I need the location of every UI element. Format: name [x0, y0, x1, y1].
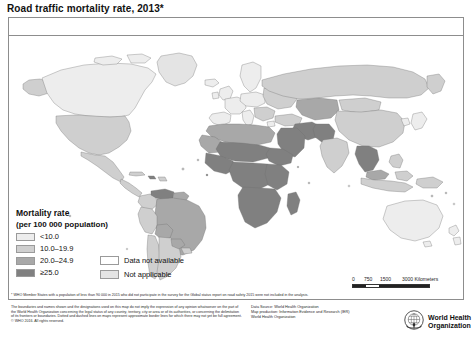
map-credits: Data Source: World Health Organization M…: [251, 305, 391, 320]
legend-label: Data not available: [124, 256, 184, 265]
credit-organization: World Health Organization: [251, 315, 391, 320]
legend-item: <10.0: [16, 231, 216, 242]
legend-subtitle: (per 100 000 population): [16, 219, 216, 230]
legend-item-not-applicable: Not applicable: [100, 269, 184, 280]
legend-swatch: [16, 269, 35, 277]
poster-root: Road traffic mortality rate, 2013* .l1 {…: [0, 0, 473, 343]
footnote-asterisk: * WHO Member States with a population of…: [11, 293, 311, 298]
who-logo: World Health Organization: [404, 310, 471, 334]
legend-item-data-not-available: Data not available: [100, 255, 184, 266]
scale-tick: 0: [352, 276, 355, 282]
scale-tick: 1500: [380, 276, 391, 282]
title-bar: [9, 18, 463, 36]
legend-label: ≥25.0: [40, 268, 59, 277]
legend-swatch: [100, 256, 119, 265]
map-disclaimer: The boundaries and names shown and the d…: [11, 305, 243, 323]
scale-tick: 750: [364, 276, 372, 282]
scale-tick: 3000 Kilometers: [402, 276, 438, 282]
legend-swatch: [16, 257, 35, 265]
who-logo-line1: World Health: [428, 314, 471, 321]
page-title: Road traffic mortality rate, 2013*: [7, 3, 164, 14]
who-logo-text: World Health Organization: [428, 314, 471, 331]
legend-label: Not applicable: [124, 270, 172, 279]
who-emblem-icon: [404, 310, 424, 334]
scale-bar-graphic: [352, 284, 430, 288]
legend-label: <10.0: [40, 232, 59, 241]
legend-label: 20.0–24.9: [40, 256, 73, 265]
legend-swatch: [16, 245, 35, 253]
scale-tick-labels: 0 750 1500 3000 Kilometers: [352, 276, 442, 284]
map-scale-bar: 0 750 1500 3000 Kilometers: [352, 276, 442, 288]
legend-swatch: [100, 270, 119, 279]
legend-item: 10.0–19.9: [16, 243, 216, 254]
legend-other-list: Data not available Not applicable: [100, 255, 184, 283]
legend-title: Mortality rate: [16, 208, 216, 219]
legend-swatch: [16, 233, 35, 241]
legend-label: 10.0–19.9: [40, 244, 73, 253]
who-logo-line2: Organization: [428, 322, 471, 329]
